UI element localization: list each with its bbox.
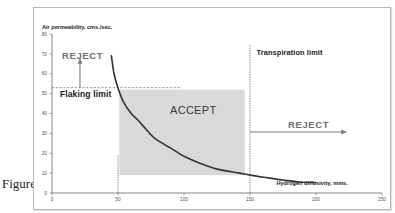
y-tick-label: 50: [42, 91, 48, 96]
x-tick-label: 150: [246, 197, 254, 202]
x-tick-label: 0: [51, 197, 54, 202]
y-tick-label: 0: [44, 191, 47, 196]
accept-region: [119, 90, 244, 175]
y-tick-label: 30: [42, 131, 48, 136]
y-axis-title: Air permeability, cms./sec.: [42, 24, 113, 30]
x-tick-label: 200: [312, 197, 320, 202]
reject-top-label: REJECT: [62, 50, 103, 61]
y-tick-label: 60: [42, 71, 48, 76]
x-tick-label: 250: [378, 197, 386, 202]
y-tick-label: 10: [42, 171, 48, 176]
y-tick-label: 20: [42, 151, 48, 156]
flaking-limit-label: Flaking limit: [60, 89, 111, 99]
y-tick-label: 40: [42, 111, 48, 116]
arrow-head-icon: [341, 130, 346, 135]
accept-label: ACCEPT: [170, 104, 216, 116]
reject-right-label: REJECT: [288, 119, 329, 130]
y-tick-label: 70: [42, 52, 48, 57]
x-tick-label: 100: [180, 197, 188, 202]
x-tick-label: 50: [115, 197, 121, 202]
y-tick-label: 80: [42, 32, 48, 37]
transpiration-limit-label: Transpiration limit: [257, 48, 323, 57]
chart: 01020304050607080050100150200250Air perm…: [0, 0, 395, 213]
